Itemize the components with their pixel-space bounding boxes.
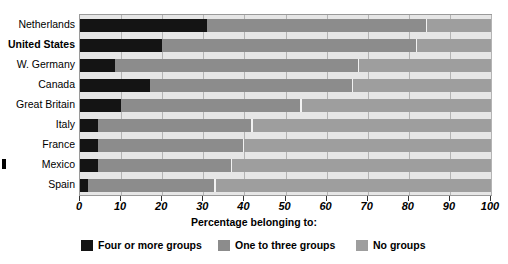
bar-segment[interactable] xyxy=(232,159,491,172)
axis-tick-label: 50 xyxy=(278,200,290,212)
x-axis-tick-labels: 0102030405060708090100 xyxy=(0,200,508,216)
axis-tick-label: 90 xyxy=(443,200,455,212)
bar-segment[interactable] xyxy=(80,79,150,92)
bar-row xyxy=(80,99,491,112)
category-label: France xyxy=(42,138,75,151)
bar-row xyxy=(80,159,491,172)
bar-row xyxy=(80,59,491,72)
bar-segment[interactable] xyxy=(253,119,491,132)
stacked-bar-chart: NetherlandsUnited StatesW. GermanyCanada… xyxy=(0,0,508,264)
stacked-bar[interactable] xyxy=(80,39,491,52)
category-label: W. Germany xyxy=(17,58,75,71)
bar-row xyxy=(80,39,491,52)
legend-item[interactable]: Four or more groups xyxy=(81,238,202,252)
bar-segment[interactable] xyxy=(80,99,121,112)
bar-segment[interactable] xyxy=(98,119,252,132)
stacked-bar[interactable] xyxy=(80,79,491,92)
bar-segment[interactable] xyxy=(359,59,491,72)
bar-row xyxy=(80,139,491,152)
stacked-bar[interactable] xyxy=(80,159,491,172)
bar-segment[interactable] xyxy=(121,99,302,112)
bar-row xyxy=(80,179,491,192)
axis-tick-label: 0 xyxy=(76,200,82,212)
bar-segment[interactable] xyxy=(80,19,207,32)
chart-legend: Four or more groupsOne to three groupsNo… xyxy=(0,238,508,254)
category-label: Spain xyxy=(48,178,75,191)
bar-segment[interactable] xyxy=(427,19,491,32)
bar-segment[interactable] xyxy=(216,179,491,192)
bar-segment[interactable] xyxy=(80,159,98,172)
category-label: Netherlands xyxy=(18,18,75,31)
bar-segment[interactable] xyxy=(88,179,215,192)
category-axis-labels: NetherlandsUnited StatesW. GermanyCanada… xyxy=(0,14,75,196)
bar-segment[interactable] xyxy=(80,179,88,192)
category-label: Italy xyxy=(56,118,75,131)
legend-swatch-icon xyxy=(218,240,230,251)
bar-rows xyxy=(80,15,491,195)
stacked-bar[interactable] xyxy=(80,139,491,152)
bar-segment[interactable] xyxy=(98,159,232,172)
stacked-bar[interactable] xyxy=(80,119,491,132)
bar-segment[interactable] xyxy=(80,139,98,152)
category-label: Canada xyxy=(38,78,75,91)
bar-segment[interactable] xyxy=(98,139,244,152)
legend-item[interactable]: One to three groups xyxy=(218,238,335,252)
legend-item[interactable]: No groups xyxy=(356,238,426,252)
axis-tick-label: 30 xyxy=(196,200,208,212)
stacked-bar[interactable] xyxy=(80,59,491,72)
bar-segment[interactable] xyxy=(162,39,417,52)
x-axis-title: Percentage belonging to: xyxy=(0,216,508,228)
stacked-bar[interactable] xyxy=(80,179,491,192)
bar-segment[interactable] xyxy=(80,39,162,52)
stacked-bar[interactable] xyxy=(80,19,491,32)
bar-row xyxy=(80,19,491,32)
axis-tick-label: 80 xyxy=(402,200,414,212)
bar-segment[interactable] xyxy=(417,39,491,52)
bar-segment[interactable] xyxy=(353,79,491,92)
legend-label: One to three groups xyxy=(235,239,335,251)
bar-segment[interactable] xyxy=(80,59,115,72)
axis-tick-label: 70 xyxy=(361,200,373,212)
bar-row xyxy=(80,119,491,132)
legend-label: Four or more groups xyxy=(98,239,202,251)
axis-tick-label: 40 xyxy=(237,200,249,212)
bar-segment[interactable] xyxy=(244,139,491,152)
bar-segment[interactable] xyxy=(207,19,427,32)
legend-swatch-icon xyxy=(81,240,93,251)
stacked-bar[interactable] xyxy=(80,99,491,112)
bar-segment[interactable] xyxy=(150,79,353,92)
category-label: United States xyxy=(8,38,75,51)
category-label: Mexico xyxy=(42,158,75,171)
category-label: Great Britain xyxy=(16,98,75,111)
bar-segment[interactable] xyxy=(80,119,98,132)
axis-tick-label: 60 xyxy=(319,200,331,212)
legend-swatch-icon xyxy=(356,240,368,251)
axis-tick-label: 20 xyxy=(155,200,167,212)
plot-area xyxy=(79,14,492,196)
axis-tick-label: 10 xyxy=(114,200,126,212)
bar-segment[interactable] xyxy=(302,99,491,112)
bar-row xyxy=(80,79,491,92)
axis-tick-label: 100 xyxy=(481,200,499,212)
bar-segment[interactable] xyxy=(115,59,360,72)
gridline xyxy=(491,15,492,195)
legend-label: No groups xyxy=(373,239,426,251)
